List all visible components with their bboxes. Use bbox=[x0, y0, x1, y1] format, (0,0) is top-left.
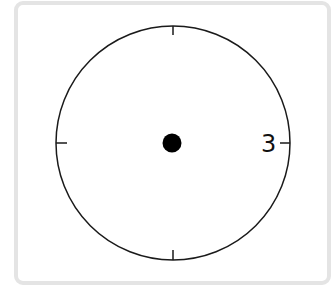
clock-face: 3 bbox=[0, 0, 331, 295]
numeral-3: 3 bbox=[261, 130, 276, 158]
center-dot bbox=[163, 134, 182, 153]
